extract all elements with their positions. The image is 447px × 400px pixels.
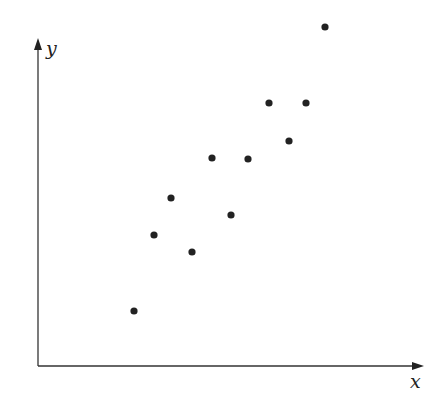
scatter-plot: y x xyxy=(0,0,447,400)
data-point xyxy=(302,99,309,106)
y-axis-arrow-icon xyxy=(34,38,42,50)
x-axis-arrow-icon xyxy=(412,362,424,370)
data-point xyxy=(285,137,292,144)
data-point xyxy=(265,99,272,106)
data-point xyxy=(227,211,234,218)
data-point xyxy=(321,23,328,30)
x-axis xyxy=(38,362,424,370)
data-point xyxy=(130,307,137,314)
data-point xyxy=(244,155,251,162)
data-point xyxy=(167,194,174,201)
x-axis-label: x xyxy=(410,370,421,392)
data-point xyxy=(188,248,195,255)
y-axis-label: y xyxy=(45,37,57,59)
data-point xyxy=(208,154,215,161)
data-points xyxy=(130,23,328,314)
y-axis xyxy=(34,38,42,366)
data-point xyxy=(150,231,157,238)
